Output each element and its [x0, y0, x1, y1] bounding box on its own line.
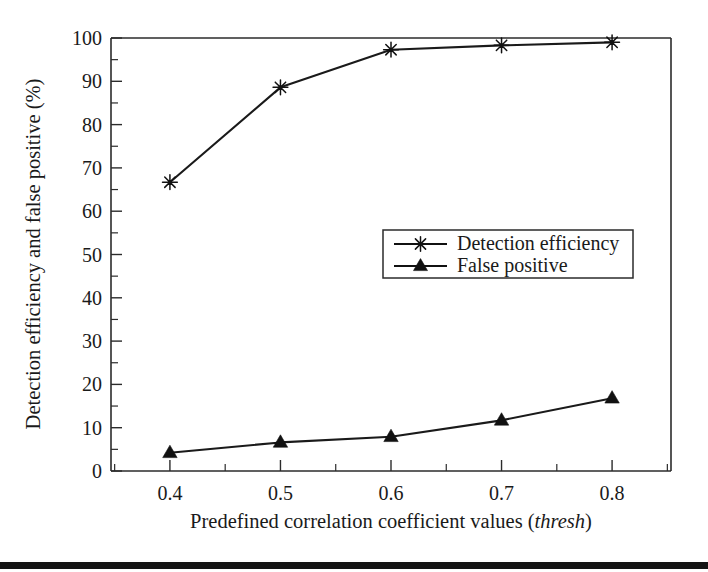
- x-tick-label: 0.6: [379, 482, 404, 504]
- legend-label-detection-efficiency: Detection efficiency: [457, 232, 619, 255]
- marker-glyph: [384, 42, 399, 57]
- x-tick-label: 0.8: [600, 482, 625, 504]
- y-tick-label: 30: [82, 330, 102, 352]
- y-tick-label: 70: [82, 157, 102, 179]
- marker-glyph: [494, 38, 509, 53]
- y-tick-label: 20: [82, 373, 102, 395]
- star-icon: [605, 35, 620, 50]
- y-axis-title: Detection efficiency and false positive …: [22, 79, 45, 430]
- x-tick-label: 0.4: [157, 482, 182, 504]
- marker-glyph: [163, 175, 178, 190]
- footer-rule: [0, 562, 708, 569]
- star-icon: [384, 42, 399, 57]
- y-tick-label: 90: [82, 70, 102, 92]
- star-icon: [273, 80, 288, 95]
- y-tick-label: 100: [72, 27, 102, 49]
- legend-label-false-positive: False positive: [457, 254, 568, 277]
- y-tick-label: 80: [82, 114, 102, 136]
- x-tick-label: 0.5: [268, 482, 293, 504]
- x-axis-title: Predefined correlation coefficient value…: [190, 510, 592, 533]
- star-icon: [163, 175, 178, 190]
- x-tick-label: 0.7: [489, 482, 514, 504]
- y-tick-label: 60: [82, 200, 102, 222]
- y-tick-label: 40: [82, 287, 102, 309]
- legend: Detection efficiency False positive: [383, 230, 633, 278]
- star-icon: [413, 237, 427, 251]
- y-tick-label: 50: [82, 244, 102, 266]
- y-tick-label: 10: [82, 417, 102, 439]
- figure-container: 0102030405060708090100 0.40.50.60.70.8 P…: [0, 0, 708, 572]
- star-icon: [494, 38, 509, 53]
- line-chart: 0102030405060708090100 0.40.50.60.70.8 P…: [0, 0, 708, 572]
- y-tick-label: 0: [92, 460, 102, 482]
- marker-glyph: [605, 35, 620, 50]
- marker-glyph: [273, 80, 288, 95]
